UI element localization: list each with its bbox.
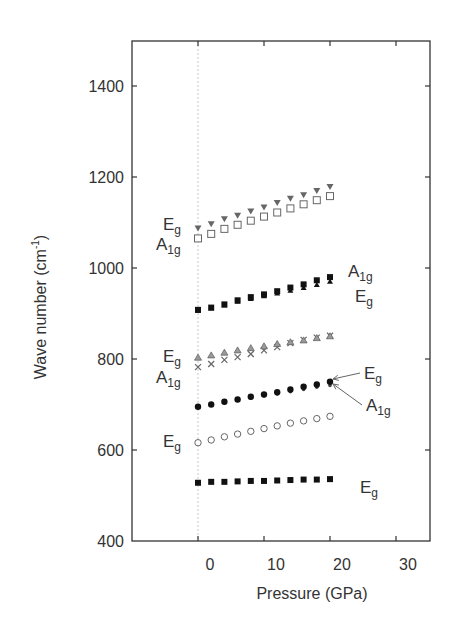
open-circle-marker xyxy=(195,440,201,446)
filled-square-marker xyxy=(221,301,227,307)
filled-square-marker xyxy=(208,479,214,485)
cross-marker xyxy=(248,351,254,357)
x-tick-label: 10 xyxy=(267,556,285,573)
filled-square-marker xyxy=(261,291,267,297)
annotation-arrow-line xyxy=(333,384,362,405)
filled-square-marker xyxy=(274,477,280,483)
y-axis-title-main: Wave number (cm xyxy=(32,249,49,379)
x-tick-label: 30 xyxy=(399,556,417,573)
open-circle-marker xyxy=(221,434,227,440)
triangle-down-marker xyxy=(300,192,307,198)
mode-symbol: A xyxy=(156,235,168,254)
filled-circle-marker xyxy=(327,379,333,385)
filled-square-marker xyxy=(248,294,254,300)
open-triangle-marker xyxy=(195,354,202,360)
mode-subscript: g xyxy=(174,223,181,237)
mode-symbol: A xyxy=(366,396,378,415)
triangle-down-marker xyxy=(261,204,268,210)
mode-symbol: E xyxy=(364,364,375,383)
filled-square-marker xyxy=(314,477,320,483)
open-square-marker xyxy=(208,230,215,237)
filled-square-marker xyxy=(301,281,307,287)
y-tick-label: 1400 xyxy=(88,78,124,95)
filled-square-marker xyxy=(195,480,201,486)
triangle-down-marker xyxy=(247,209,254,215)
series-eg xyxy=(195,333,334,360)
filled-circle-marker xyxy=(195,404,201,410)
open-circle-marker xyxy=(261,425,267,431)
filled-square-marker xyxy=(301,477,307,483)
mode-symbol: E xyxy=(163,215,174,234)
filled-square-marker xyxy=(287,285,293,291)
mode-symbol: A xyxy=(156,368,168,387)
mode-symbol: A xyxy=(348,262,360,281)
open-circle-marker xyxy=(274,423,280,429)
plot-frame-border xyxy=(132,41,430,541)
triangle-down-marker xyxy=(208,221,215,227)
mode-label-eg: Eg xyxy=(163,215,181,237)
mode-subscript: g xyxy=(174,440,181,454)
plot-frame xyxy=(132,41,430,541)
mode-subscript: 1g xyxy=(167,243,180,257)
open-square-marker xyxy=(274,209,281,216)
open-square-marker xyxy=(234,221,241,228)
triangle-down-marker xyxy=(234,213,241,219)
mode-label-a1g: A1g xyxy=(156,235,181,257)
filled-square-marker xyxy=(274,288,280,294)
filled-circle-marker xyxy=(287,386,293,392)
filled-square-marker xyxy=(221,479,227,485)
filled-square-marker xyxy=(248,478,254,484)
mode-label-eg: Eg xyxy=(360,478,378,500)
open-triangle-marker xyxy=(234,347,241,353)
open-circle-marker xyxy=(248,428,254,434)
x-axis-ticks: 0102030 xyxy=(198,41,417,573)
mode-subscript: 1g xyxy=(167,376,180,390)
series-a1g xyxy=(195,333,333,370)
filled-square-marker xyxy=(314,277,320,283)
series-eg xyxy=(195,476,333,486)
open-circle-marker xyxy=(314,415,320,421)
cross-marker xyxy=(221,357,227,363)
open-triangle-marker xyxy=(261,343,268,349)
y-tick-label: 600 xyxy=(97,442,124,459)
filled-circle-marker xyxy=(274,389,280,395)
filled-square-marker xyxy=(208,305,214,311)
mode-subscript: 1g xyxy=(359,270,372,284)
cross-marker xyxy=(235,354,241,360)
raman-shift-vs-pressure-chart: 400600800100012001400 0102030 EgA1gA1gEg… xyxy=(0,0,457,638)
data-series-layer xyxy=(195,184,334,486)
open-square-marker xyxy=(287,205,294,212)
mode-subscript: g xyxy=(366,295,373,309)
open-square-marker xyxy=(195,235,202,242)
series-a1g xyxy=(195,193,334,242)
mode-label-a1g: A1g xyxy=(348,262,373,284)
mode-labels-layer: EgA1gA1gEgEgA1gEgA1gEgEg xyxy=(156,215,391,500)
triangle-down-marker xyxy=(327,184,334,190)
open-circle-marker xyxy=(287,420,293,426)
y-tick-label: 800 xyxy=(97,351,124,368)
mode-label-eg: Eg xyxy=(163,432,181,454)
mode-label-eg: Eg xyxy=(364,364,382,386)
open-square-marker xyxy=(313,197,320,204)
filled-square-marker xyxy=(287,477,293,483)
open-triangle-marker xyxy=(208,352,215,358)
triangle-down-marker xyxy=(221,216,228,222)
mode-label-eg: Eg xyxy=(355,287,373,309)
y-axis-title: Wave number (cm-1) xyxy=(30,235,49,379)
filled-square-marker xyxy=(327,476,333,482)
mode-symbol: E xyxy=(360,478,371,497)
filled-square-marker xyxy=(327,274,333,280)
y-axis-ticks: 400600800100012001400 xyxy=(88,78,430,550)
x-tick-label: 20 xyxy=(333,556,351,573)
open-square-marker xyxy=(247,217,254,224)
plot-svg: 400600800100012001400 0102030 EgA1gA1gEg… xyxy=(0,0,457,638)
filled-circle-marker xyxy=(221,399,227,405)
mode-label-a1g: A1g xyxy=(366,396,391,418)
open-triangle-marker xyxy=(274,341,281,347)
filled-square-marker xyxy=(235,478,241,484)
mode-symbol: E xyxy=(355,287,366,306)
open-square-marker xyxy=(327,193,334,200)
series-eg xyxy=(195,184,334,231)
triangle-down-marker xyxy=(287,196,294,202)
mode-subscript: g xyxy=(375,372,382,386)
